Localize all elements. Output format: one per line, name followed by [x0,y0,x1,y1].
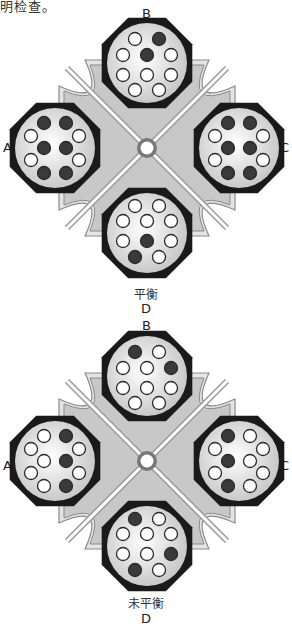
tube-slot-filled [60,480,73,493]
tube-slot-empty [153,251,166,264]
tube-slot-filled [129,251,142,264]
tube-slot-empty [153,397,166,410]
tube-slot-filled [222,167,235,180]
tube-slot-empty [73,154,86,167]
tube-slot-empty [257,467,270,480]
tube-slot-filled [244,167,257,180]
tube-slot-empty [244,480,257,493]
centrifuge-rotor-graphic [0,318,292,629]
hub-center [141,142,154,155]
tube-slot-empty [141,362,154,375]
tube-slot-filled [129,346,142,359]
tube-slot-empty [117,548,130,561]
tube-slot-empty [244,430,257,443]
rotor-a [10,103,101,194]
rotor-c [194,416,285,507]
rotor-d [102,501,193,592]
tube-slot-empty [153,564,166,577]
rotor-d [102,188,193,279]
tube-slot-filled [60,142,73,155]
tube-slot-empty [257,130,270,143]
tube-slot-empty [25,130,38,143]
tube-slot-empty [209,467,222,480]
tube-slot-empty [165,382,178,395]
tube-slot-filled [129,513,142,526]
rotor-label-d: D [0,301,292,316]
state-label-unbalanced: 未平衡 [0,594,292,611]
tube-slot-empty [153,513,166,526]
tube-slot-filled [222,430,235,443]
tube-slot-empty [38,430,51,443]
tube-slot-empty [165,235,178,248]
tube-slot-empty [117,382,130,395]
tube-slot-empty [257,154,270,167]
tube-slot-empty [73,467,86,480]
tube-slot-empty [209,443,222,456]
tube-slot-filled [244,117,257,130]
rotor-b [102,331,193,422]
tube-slot-filled [38,167,51,180]
state-label-balanced: 平衡 [0,285,292,302]
tube-slot-empty [141,528,154,541]
tube-slot-empty [153,346,166,359]
tube-slot-empty [165,215,178,228]
hub-center [141,455,154,468]
tube-slot-filled [153,33,166,46]
tube-slot-filled [60,117,73,130]
tube-slot-empty [209,154,222,167]
tube-slot-empty [165,69,178,82]
tube-slot-empty [153,200,166,213]
tube-slot-filled [165,362,178,375]
tube-slot-filled [38,117,51,130]
tube-slot-empty [117,69,130,82]
tube-slot-empty [165,528,178,541]
tube-slot-empty [141,382,154,395]
tube-slot-empty [38,455,51,468]
tube-slot-empty [153,84,166,97]
rotor-a [10,416,101,507]
tube-slot-empty [117,362,130,375]
tube-slot-empty [257,443,270,456]
tube-slot-empty [141,69,154,82]
tube-slot-empty [38,480,51,493]
tube-slot-filled [222,142,235,155]
tube-slot-empty [141,548,154,561]
tube-slot-empty [165,49,178,62]
tube-slot-filled [38,142,51,155]
tube-slot-empty [209,130,222,143]
diagram-unbalanced: B A C 未平衡 D [0,318,292,629]
tube-slot-empty [73,130,86,143]
tube-slot-empty [117,235,130,248]
diagram-balanced: B A C 平衡 D [0,0,292,318]
tube-slot-filled [222,455,235,468]
tube-slot-filled [60,167,73,180]
tube-slot-empty [25,154,38,167]
tube-slot-filled [165,548,178,561]
tube-slot-empty [117,49,130,62]
tube-slot-filled [60,430,73,443]
tube-slot-empty [129,84,142,97]
tube-slot-filled [141,49,154,62]
rotor-c [194,103,285,194]
tube-slot-filled [244,142,257,155]
rotor-b [102,18,193,109]
tube-slot-empty [25,467,38,480]
tube-slot-filled [60,455,73,468]
rotor-label-d: D [0,611,292,626]
tube-slot-empty [141,215,154,228]
tube-slot-empty [117,528,130,541]
tube-slot-empty [117,215,130,228]
tube-slot-empty [73,443,86,456]
centrifuge-rotor-graphic [0,0,292,318]
tube-slot-filled [222,480,235,493]
tube-slot-filled [141,235,154,248]
tube-slot-empty [244,455,257,468]
tube-slot-empty [25,443,38,456]
tube-slot-empty [129,397,142,410]
tube-slot-empty [129,33,142,46]
tube-slot-filled [129,564,142,577]
tube-slot-filled [222,117,235,130]
tube-slot-empty [129,200,142,213]
